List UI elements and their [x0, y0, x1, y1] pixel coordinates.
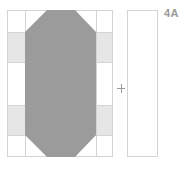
octagon-center-piece [25, 10, 96, 157]
plus-icon [117, 84, 125, 93]
band-top-left [7, 32, 25, 62]
band-bottom-right [96, 105, 113, 135]
figure-label: 4A [164, 7, 179, 19]
band-top-right [96, 32, 113, 62]
block-assembly [7, 10, 113, 157]
sashing-strip [128, 11, 158, 157]
quilt-block-diagram [0, 0, 192, 169]
band-bottom-left [7, 105, 25, 135]
